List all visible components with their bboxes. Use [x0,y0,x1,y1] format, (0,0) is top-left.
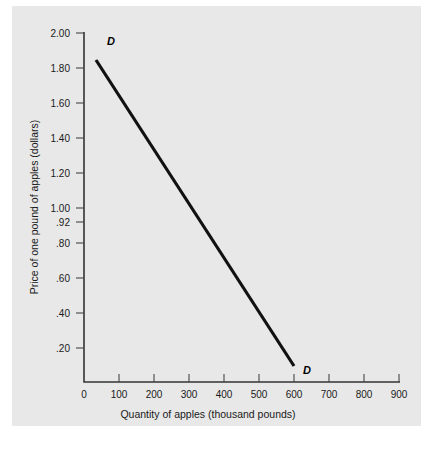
y-tick-label: .40 [56,308,70,319]
x-tick-label: 900 [391,389,408,400]
y-tick-label: 1.00 [51,203,71,214]
demand-curve-chart: 2.00 1.80 1.60 1.40 1.20 1.00 .92 .80 .6… [12,6,421,426]
curve-label-upper: D [107,35,115,47]
axis-lines [84,32,400,382]
y-axis-title: Price of one pound of apples (dollars) [28,120,40,295]
x-tick-label: 800 [356,389,373,400]
plot-area: 2.00 1.80 1.60 1.40 1.20 1.00 .92 .80 .6… [12,6,421,426]
demand-curve-line [96,60,294,366]
x-tick-label: 600 [286,389,303,400]
y-tick-label: 1.40 [51,133,71,144]
x-tick-label: 400 [216,389,233,400]
y-tick-label: 1.20 [51,168,71,179]
figure-panel: 2.00 1.80 1.60 1.40 1.20 1.00 .92 .80 .6… [12,6,421,426]
y-axis-ticks [76,33,84,348]
y-tick-label-92: .92 [56,217,70,228]
y-tick-label: .80 [56,238,70,249]
x-axis-tick-labels: 0 100 200 300 400 500 600 700 800 900 [81,389,408,400]
y-tick-label: 1.60 [51,98,71,109]
x-tick-label: 300 [181,389,198,400]
curve-label-lower: D [303,364,311,376]
y-tick-label: 1.80 [51,63,71,74]
y-tick-label: 2.00 [51,28,71,39]
x-axis-ticks [119,374,399,382]
y-tick-label: .20 [56,343,70,354]
x-tick-label: 200 [146,389,163,400]
x-tick-label: 100 [111,389,128,400]
y-axis-tick-labels: 2.00 1.80 1.60 1.40 1.20 1.00 .92 .80 .6… [51,28,71,354]
y-tick-label: .60 [56,273,70,284]
x-tick-label: 700 [321,389,338,400]
x-tick-label: 500 [251,389,268,400]
x-axis-title: Quantity of apples (thousand pounds) [120,408,295,420]
x-tick-label: 0 [81,389,87,400]
